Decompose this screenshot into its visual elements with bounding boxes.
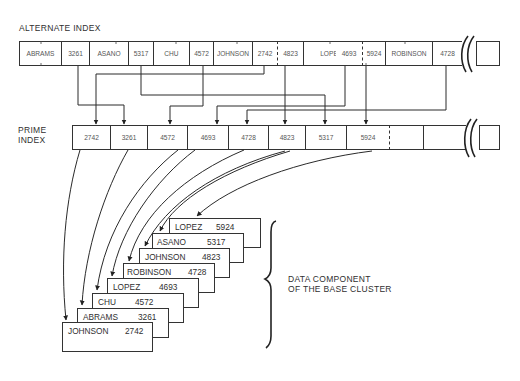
record-name: ABRAMS [83,312,118,322]
record-key: 2742 [125,326,143,336]
alt-index-cell: 5317 [128,41,153,66]
data-component-label: DATA COMPONENT OF THE BASE CLUSTER [288,274,392,294]
brace [265,221,276,348]
record-key: 4728 [188,267,206,277]
alt-index-cell: 3261 [61,41,89,66]
prime-index-tail [479,125,500,150]
alt-index-cell: ASANO [89,41,128,66]
record-name: JOHNSON [68,326,109,336]
prime-index-cell: 4572 [147,125,187,150]
prime-index-cell: 5924 [346,125,389,150]
alternate-index-title: ALTERNATE INDEX [19,23,101,33]
record-key: 5317 [207,237,225,247]
alternate-index-row: ABRAMS 3261 ASANO 5317 CHU 4572 JOHNSON … [0,41,520,66]
record-name: JOHNSON [145,252,186,262]
alt-index-cell: 2742 [252,41,277,66]
data-component-label-line1: DATA COMPONENT [288,274,392,284]
alt-index-cell: ROBINSON [385,41,432,66]
record-name: ROBINSON [127,267,171,277]
prime-index-cell: 4693 [187,125,228,150]
alt-index-cell: 4823 [277,41,303,66]
link-3261 [78,66,124,124]
record-name: ASANO [157,237,186,247]
prime-index-gap [466,125,479,150]
prime-index-row: 2742 3261 4572 4693 4728 4823 5317 5924 [0,125,520,150]
alt-index-cell: 4572 [189,41,213,66]
alt-index-cell: ABRAMS [19,41,61,66]
record-name: CHU [98,297,116,307]
alt-index-tail [476,41,500,66]
prime-index-cell: 2742 [72,125,110,150]
record-key: 5924 [216,222,234,232]
prime-index-cell [423,125,466,150]
prime-index-cell: 4823 [268,125,305,150]
record-key: 4572 [135,297,153,307]
prime-index-cell [389,125,423,150]
prime-index-cell: 3261 [110,125,147,150]
prime-index-cell: 4728 [228,125,268,150]
record-key: 4823 [202,252,220,262]
alt-index-gap [462,41,476,66]
alt-index-cell: 5924 [362,41,385,66]
alt-index-cell: 4693 [336,41,362,66]
prime-index-cell: 5317 [305,125,346,150]
alt-index-cell: JOHNSON [213,41,252,66]
data-record: JOHNSON 2742 [62,322,153,352]
record-name: LOPEZ [113,282,140,292]
record-key: 3261 [138,312,156,322]
record-key: 4693 [159,282,177,292]
alt-index-cell: CHU [153,41,189,66]
data-component-label-line2: OF THE BASE CLUSTER [288,284,392,294]
record-name: LOPEZ [175,222,202,232]
alt-index-cell: 4728 [432,41,462,66]
